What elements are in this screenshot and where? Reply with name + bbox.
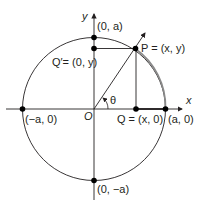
point-top	[91, 35, 97, 41]
bottom-point-label: (0, −a)	[97, 183, 129, 195]
point-q	[133, 106, 139, 112]
origin-label: O	[84, 110, 93, 122]
q-prime-label: Q′= (0, y)	[52, 56, 97, 68]
point-bottom	[91, 178, 97, 184]
left-point-label: (−a, 0)	[25, 113, 57, 125]
top-point-label: (0, a)	[97, 20, 123, 32]
unit-circle-diagram: y x O (0, a) (−a, 0) (a, 0) (0, −a) Q′= …	[0, 0, 199, 211]
y-axis-label: y	[81, 10, 89, 22]
point-p	[133, 46, 139, 52]
arc-theta	[135, 49, 166, 110]
angle-arc	[103, 98, 108, 109]
x-axis-label: x	[185, 94, 192, 106]
point-left	[20, 106, 26, 112]
right-point-label: (a, 0)	[168, 113, 194, 125]
p-label: P = (x, y)	[141, 42, 185, 54]
point-q-prime	[91, 46, 97, 52]
point-right	[163, 106, 169, 112]
theta-label: θ	[110, 94, 116, 106]
ray-op	[94, 33, 145, 109]
q-label: Q = (x, 0)	[117, 113, 163, 125]
